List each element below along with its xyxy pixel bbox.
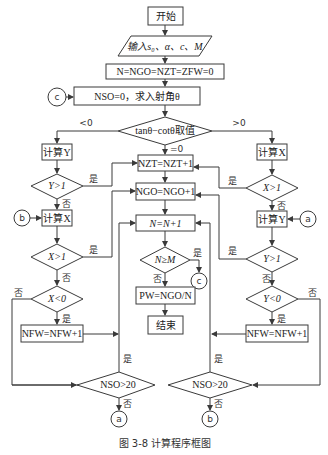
nso-right-label: NSO>20: [192, 379, 228, 390]
nfw-right-label: NFW=NFW+1: [247, 328, 308, 339]
calc-y-left-node: 计算Y: [42, 144, 72, 160]
flowchart: 开始 输入s₀、α、c、M N=NGO=NZT=ZFW=0 c NSO=0，求入…: [0, 0, 328, 455]
nso-left-label: NSO>20: [100, 379, 136, 390]
label-yes-xr: 是: [228, 176, 237, 186]
x-gt1-right-label: X>1: [262, 182, 281, 193]
nso-init-label: NSO=0，求入射角θ: [94, 91, 180, 102]
connector-b-bottom: b: [202, 411, 218, 427]
label-no-yr: 否: [262, 274, 271, 284]
input-node: 输入s₀、α、c、M: [118, 36, 212, 56]
calc-x-right-label: 计算X: [258, 146, 286, 158]
x-lt0-decision: X<0: [31, 286, 83, 312]
label-no-ylt0: 否: [308, 288, 317, 298]
nfw-right-node: NFW=NFW+1: [246, 325, 308, 342]
svg-text:b: b: [207, 414, 213, 424]
label-eq0: =0: [170, 144, 184, 154]
n-inc-node: N=N+1: [136, 215, 195, 231]
ngo-label: NGO=NGO+1: [136, 186, 196, 197]
label-lt0: <0: [79, 118, 93, 128]
nso-init-node: NSO=0，求入射角θ: [74, 87, 200, 105]
pw-node: PW=NGO/N: [136, 287, 195, 304]
nzt-node: NZT=NZT+1: [138, 155, 193, 171]
connector-a-bottom: a: [111, 411, 127, 427]
nfw-left-label: NFW=NFW+1: [22, 328, 83, 339]
y-lt0-label: Y<0: [263, 293, 280, 304]
label-no-nm: 否: [153, 274, 162, 284]
y-lt0-decision: Y<0: [246, 286, 298, 312]
svg-text:c: c: [55, 92, 60, 102]
end-label: 结束: [156, 319, 176, 331]
nso-right-decision: NSO>20: [168, 372, 252, 398]
calc-y-right-node: 计算Y: [257, 211, 287, 227]
x-gt1-right-decision: X>1: [246, 175, 298, 201]
calc-x-right-node: 计算X: [257, 144, 287, 160]
start-node: 开始: [148, 7, 183, 25]
calc-y-left-label: 计算Y: [43, 146, 70, 158]
svg-text:a: a: [305, 214, 311, 224]
svg-text:b: b: [19, 213, 25, 223]
svg-text:c: c: [197, 276, 202, 286]
label-gt0: >0: [232, 118, 246, 128]
main-decision: tanθ−cotθ取值: [118, 117, 212, 145]
start-label: 开始: [156, 10, 176, 22]
input-label: 输入s₀、α、c、M: [127, 41, 203, 52]
label-no-yl: 否: [62, 199, 71, 209]
main-decision-label: tanθ−cotθ取值: [135, 124, 195, 136]
label-yes-xl: 是: [89, 245, 98, 255]
n-inc-label: N=N+1: [149, 218, 182, 229]
init-node: N=NGO=NZT=ZFW=0: [106, 64, 224, 79]
label-yes-xlt0: 是: [62, 314, 71, 324]
label-no-nsol: 否: [123, 399, 132, 409]
ngo-node: NGO=NGO+1: [136, 183, 196, 200]
label-no-nsor: 否: [214, 399, 223, 409]
nso-left-decision: NSO>20: [77, 372, 155, 398]
calc-x-left-node: 计算X: [42, 210, 72, 226]
n-ge-m-decision: N≥M: [140, 247, 190, 273]
end-node: 结束: [148, 316, 183, 334]
calc-y-right-label: 计算Y: [258, 213, 285, 225]
label-no-xl: 否: [62, 273, 71, 283]
label-yes-nsor: 是: [214, 354, 223, 364]
figure-caption: 图 3-8 计算程序框图: [119, 437, 212, 449]
label-no-xr: 否: [277, 201, 286, 211]
y-gt1-left-decision: Y>1: [31, 174, 83, 199]
label-yes-yr: 是: [228, 246, 237, 256]
label-yes-yl: 是: [89, 174, 98, 184]
y-gt1-right-decision: Y>1: [246, 246, 298, 272]
calc-x-left-label: 计算X: [43, 212, 71, 224]
x-gt1-left-decision: X>1: [31, 244, 83, 270]
connector-a-right: a: [300, 211, 316, 227]
nfw-left-node: NFW=NFW+1: [21, 325, 83, 342]
connector-b-left: b: [14, 210, 30, 226]
nzt-label: NZT=NZT+1: [138, 158, 193, 169]
x-gt1-left-label: X>1: [47, 251, 66, 262]
init-label: N=NGO=NZT=ZFW=0: [117, 66, 214, 77]
connector-c-top: c: [48, 88, 66, 106]
n-ge-m-label: N≥M: [154, 254, 176, 265]
label-no-xlt0: 否: [14, 288, 23, 298]
label-yes-ylt0: 是: [277, 314, 286, 324]
label-yes-nsol: 是: [123, 354, 132, 364]
x-lt0-label: X<0: [47, 293, 66, 304]
pw-label: PW=NGO/N: [139, 290, 191, 301]
y-gt1-left-label: Y>1: [48, 180, 65, 191]
y-gt1-right-label: Y>1: [263, 253, 280, 264]
label-yes-nm: 是: [193, 248, 202, 258]
svg-text:a: a: [116, 414, 122, 424]
